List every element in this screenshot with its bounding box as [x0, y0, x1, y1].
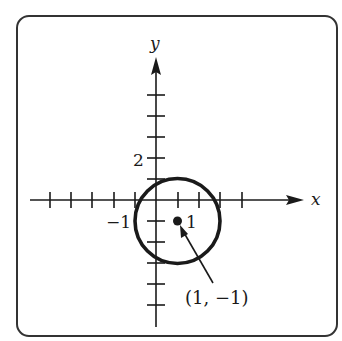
y-tick-label-2: 2 [133, 150, 144, 170]
circle-center-point [173, 217, 182, 226]
x-axis-label: x [311, 189, 321, 209]
x-axis [30, 192, 304, 208]
annotation-pointer [183, 231, 213, 283]
center-annotation-label: (1, −1) [185, 287, 248, 308]
coordinate-plane-figure: y x 2 −1 1 (1, −1) [0, 0, 342, 341]
y-axis [147, 57, 165, 327]
x-tick-label-1: 1 [186, 212, 197, 232]
x-tick-label-neg1: −1 [106, 212, 131, 232]
figure-frame [17, 16, 337, 336]
y-axis-label: y [149, 33, 160, 53]
